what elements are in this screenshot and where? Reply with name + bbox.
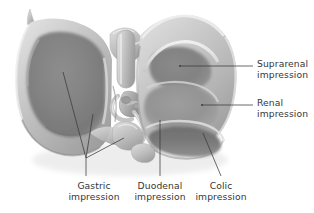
label-suprarenal-line2: impression <box>257 69 308 80</box>
label-suprarenal-impression: Suprarenal impression <box>257 58 308 80</box>
label-colic-line1: Colic <box>195 180 246 191</box>
label-gastric-impression: Gastric impression <box>68 180 119 202</box>
label-gastric-line2: impression <box>68 191 119 202</box>
label-renal-impression: Renal impression <box>257 97 308 119</box>
label-renal-line2: impression <box>257 108 308 119</box>
right-lobe <box>137 15 236 159</box>
leader-dot-renal <box>201 104 203 106</box>
label-gastric-line1: Gastric <box>68 180 119 191</box>
label-suprarenal-line1: Suprarenal <box>257 58 308 69</box>
label-duodenal-line1: Duodenal <box>134 180 185 191</box>
liver-organ <box>16 9 237 176</box>
label-colic-line2: impression <box>195 191 246 202</box>
label-duodenal-line2: impression <box>134 191 185 202</box>
left-lobe <box>16 9 126 155</box>
label-renal-line1: Renal <box>257 97 308 108</box>
vena-cava-groove <box>117 30 135 88</box>
label-duodenal-impression: Duodenal impression <box>134 180 185 202</box>
vessel-opening-a <box>122 97 131 104</box>
liver-anatomy-figure: Suprarenal impression Renal impression G… <box>0 0 314 213</box>
label-colic-impression: Colic impression <box>195 180 246 202</box>
leader-dot-suprarenal <box>179 65 181 67</box>
